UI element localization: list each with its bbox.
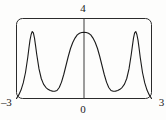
- x-zero-tick-label: 0: [0, 104, 166, 115]
- plot-area: [0, 0, 166, 120]
- chart-figure: 4 –3 3 0: [0, 0, 166, 120]
- y-max-tick-label: 4: [0, 3, 166, 14]
